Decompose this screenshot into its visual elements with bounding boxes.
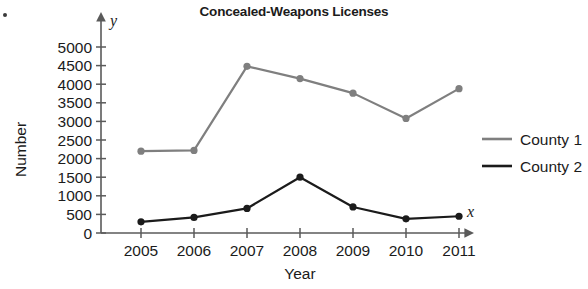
- y-tick-label: 5000: [58, 39, 93, 56]
- y-tick-label: 3000: [58, 113, 93, 130]
- y-axis-title: Number: [12, 122, 29, 177]
- data-point: [137, 148, 144, 155]
- x-tick-label: 2010: [389, 242, 424, 259]
- data-series-1: [137, 63, 462, 155]
- x-tick-label: 2008: [283, 242, 317, 259]
- series-line: [141, 177, 459, 222]
- y-tick-label: 2000: [58, 150, 93, 167]
- data-point: [349, 90, 356, 97]
- y-tick-label: 4000: [58, 76, 93, 93]
- y-tick-label: 1500: [58, 169, 93, 186]
- x-axis-variable-label: x: [466, 203, 474, 220]
- chart-legend: County 1 County 2: [482, 131, 582, 175]
- y-tick-label: 500: [66, 206, 92, 223]
- data-point: [296, 75, 303, 82]
- y-tick-label: 1000: [58, 187, 93, 204]
- chart-plot-area: 0 500 1000 1500 2000 2500 3000 3500 4000…: [0, 0, 588, 289]
- chart-figure: Concealed-Weapons Licenses: [0, 0, 588, 289]
- y-tick-label: 2500: [58, 132, 93, 149]
- x-tick-label: 2007: [230, 242, 264, 259]
- data-point: [190, 214, 197, 221]
- data-point: [137, 218, 144, 225]
- data-series-layer: [137, 63, 462, 226]
- y-tick-label: 0: [83, 225, 92, 242]
- x-tick-label: 2005: [124, 242, 158, 259]
- x-tick-label: 2006: [177, 242, 211, 259]
- y-tick-label: 3500: [58, 94, 93, 111]
- x-tick-label: 2009: [336, 242, 370, 259]
- data-point: [190, 147, 197, 154]
- data-point: [402, 215, 409, 222]
- data-point: [243, 63, 250, 70]
- legend-label-county-1: County 1: [520, 131, 582, 148]
- data-point: [243, 205, 250, 212]
- y-axis-variable-label: y: [108, 12, 118, 30]
- y-tick-label: 4500: [58, 57, 93, 74]
- data-series-2: [137, 174, 462, 226]
- data-point: [296, 174, 303, 181]
- legend-label-county-2: County 2: [520, 158, 582, 175]
- data-point: [402, 115, 409, 122]
- x-axis-title: Year: [284, 265, 315, 282]
- x-tick-label: 2011: [442, 242, 475, 259]
- data-point: [455, 85, 462, 92]
- data-point: [455, 213, 462, 220]
- data-point: [349, 203, 356, 210]
